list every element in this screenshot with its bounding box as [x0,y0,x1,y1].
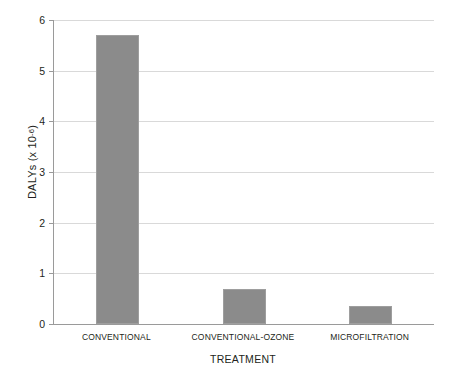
y-axis-tick-mark [49,172,54,173]
y-axis-title-text: DALYs (x 10 [26,136,38,199]
y-axis-tick-label: 3 [39,166,45,178]
bar [223,289,266,324]
y-axis-tick-mark [49,121,54,122]
y-axis-tick-mark [49,324,54,325]
bar [96,35,139,324]
x-axis-category-label: MICROFILTRATION [330,332,409,342]
gridline [54,20,434,21]
y-axis-tick-label: 5 [39,65,45,77]
x-axis-category-label: CONVENTIONAL [82,332,151,342]
y-axis-tick-mark [49,20,54,21]
y-axis-title-suffix: ) [26,125,38,129]
bar-chart: DALYs (x 10-6) 0123456 TREATMENT CONVENT… [0,0,451,374]
y-axis-tick-label: 0 [39,318,45,330]
y-axis-tick-label: 1 [39,267,45,279]
y-axis-tick-label: 4 [39,115,45,127]
y-axis-tick-label: 2 [39,217,45,229]
y-axis-tick-mark [49,223,54,224]
y-axis-tick-label: 6 [39,14,45,26]
y-axis-tick-mark [49,71,54,72]
axis-baseline [54,324,434,325]
bar [349,306,392,324]
x-axis-category-label: CONVENTIONAL-OZONE [192,332,295,342]
y-axis-tick-mark [49,273,54,274]
x-axis-title: TREATMENT [53,353,433,365]
plot-area: 0123456 [53,20,433,324]
